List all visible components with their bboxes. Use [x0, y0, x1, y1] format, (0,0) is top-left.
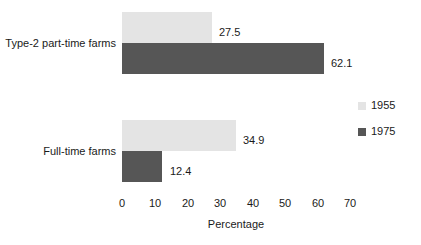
bar-chart: 27.5 62.1 Type-2 part-time farms 34.9 12… [0, 0, 421, 245]
x-tick-10: 10 [143, 198, 167, 209]
legend-item-1955: 1955 [358, 97, 395, 114]
x-axis-title: Percentage [122, 218, 350, 230]
x-tick-0: 0 [110, 198, 134, 209]
bar-type2-1955 [122, 12, 212, 43]
x-tick-20: 20 [176, 198, 200, 209]
category-label-type-2-part-time-farms: Type-2 part-time farms [4, 37, 116, 49]
legend: 1955 1975 [358, 97, 395, 149]
legend-item-1975: 1975 [358, 123, 395, 140]
x-tick-50: 50 [273, 198, 297, 209]
bar-value-type2-1955: 27.5 [219, 27, 240, 38]
x-tick-60: 60 [306, 198, 330, 209]
x-tick-40: 40 [241, 198, 265, 209]
bar-type2-1975 [122, 43, 324, 74]
bar-value-type2-1975: 62.1 [331, 58, 352, 69]
plot-area: 27.5 62.1 Type-2 part-time farms 34.9 12… [0, 0, 421, 245]
legend-label-1975: 1975 [371, 126, 395, 137]
bar-fulltime-1975 [122, 151, 162, 182]
x-tick-30: 30 [208, 198, 232, 209]
bar-value-fulltime-1955: 34.9 [243, 135, 264, 146]
legend-label-1955: 1955 [371, 100, 395, 111]
category-label-full-time-farms: Full-time farms [4, 145, 116, 157]
bar-fulltime-1955 [122, 120, 236, 151]
legend-swatch-icon-1975 [358, 128, 366, 136]
bar-value-fulltime-1975: 12.4 [170, 166, 191, 177]
legend-swatch-icon-1955 [358, 102, 366, 110]
x-tick-70: 70 [338, 198, 362, 209]
